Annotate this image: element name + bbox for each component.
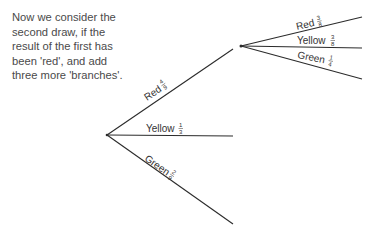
branch-yellow-2 bbox=[241, 46, 362, 48]
label-green-2: Green 1 4 bbox=[296, 48, 334, 68]
svg-text:1: 1 bbox=[179, 122, 183, 128]
svg-text:Yellow: Yellow bbox=[297, 35, 326, 46]
label-green-1: Green 2 9 bbox=[142, 152, 177, 182]
svg-text:Red: Red bbox=[295, 17, 315, 32]
svg-text:4: 4 bbox=[328, 61, 333, 68]
svg-text:3: 3 bbox=[179, 129, 183, 135]
label-yellow-2: Yellow 3 8 bbox=[297, 34, 335, 47]
svg-text:1: 1 bbox=[329, 54, 334, 61]
svg-text:Green: Green bbox=[143, 153, 172, 178]
red-node bbox=[240, 45, 243, 48]
svg-text:Red: Red bbox=[142, 83, 163, 102]
label-yellow-1: Yellow 1 3 bbox=[146, 122, 183, 135]
svg-text:9: 9 bbox=[162, 84, 169, 91]
svg-text:8: 8 bbox=[331, 41, 335, 47]
svg-text:Yellow: Yellow bbox=[146, 123, 175, 134]
branch-yellow-1 bbox=[107, 135, 233, 136]
svg-text:3: 3 bbox=[316, 14, 321, 21]
label-red-1: Red 4 9 bbox=[141, 78, 169, 103]
svg-text:8: 8 bbox=[318, 21, 323, 28]
svg-text:3: 3 bbox=[331, 34, 335, 40]
probability-tree: Red 4 9 Yellow 1 3 Green 2 9 Red 3 8 Yel… bbox=[0, 0, 373, 229]
root-node bbox=[106, 134, 109, 137]
